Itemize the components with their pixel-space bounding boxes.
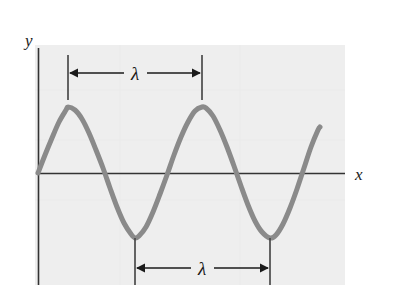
lambda-label-bottom: λ — [197, 258, 206, 279]
wave-diagram-canvas: λ λ y x — [0, 0, 399, 293]
lambda-label-top: λ — [130, 63, 139, 84]
plot-background — [35, 45, 345, 285]
y-axis-label: y — [23, 31, 33, 50]
x-axis-label: x — [354, 165, 363, 184]
wave-diagram: λ λ y x — [0, 0, 399, 293]
